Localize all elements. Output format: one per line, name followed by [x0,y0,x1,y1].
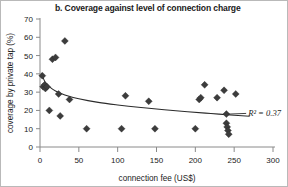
data-point-marker [57,112,64,119]
r2-leader-line [229,113,246,114]
data-point-marker [192,125,199,132]
y-axis-title: coverage by private tap (%) [6,33,15,133]
x-tick-label: 50 [74,156,83,165]
chart-figure: b. Coverage against level of connection … [0,0,288,187]
data-point-marker [46,107,53,114]
data-point-marker [221,87,228,94]
x-tick-label: 300 [266,156,280,165]
x-tick-label: 200 [189,156,203,165]
x-tick-label: 0 [38,156,43,165]
y-tick-label: 20 [24,106,33,115]
data-point-marker [201,81,208,88]
x-tick-label: 100 [111,156,125,165]
y-tick-label: 0 [29,143,34,152]
r2-annotation: R² = 0.37 [247,108,282,118]
trend-line [42,73,250,116]
x-axis-tick-labels: 050100150200250300 [38,156,280,165]
data-point-marker [118,125,125,132]
y-tick-label: 10 [24,125,33,134]
data-point-marker [151,125,158,132]
y-tick-label: 70 [24,15,33,24]
data-point-marker [61,37,68,44]
data-point-marker [83,125,90,132]
data-point-marker [214,94,221,101]
x-axis-ticks [40,147,273,152]
data-point-group [39,37,239,137]
y-tick-label: 50 [24,52,33,61]
y-tick-label: 40 [24,70,33,79]
y-axis-ticks [36,19,40,147]
x-axis-title: connection fee (US$) [119,174,196,183]
y-tick-label: 30 [24,88,33,97]
y-axis-tick-labels: 010203040506070 [24,15,33,152]
data-point-marker [122,92,129,99]
scatter-plot: 010203040506070 050100150200250300 R² = … [1,1,288,187]
data-point-marker [145,98,152,105]
y-tick-label: 60 [24,33,33,42]
x-tick-label: 250 [227,156,241,165]
data-point-marker [232,90,239,97]
x-tick-label: 150 [150,156,164,165]
